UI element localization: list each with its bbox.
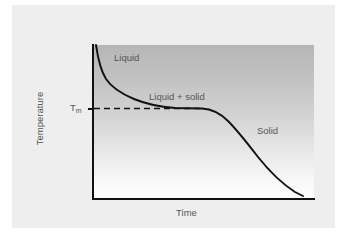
y-axis-tick-label-tm: Tm — [70, 102, 82, 113]
x-axis-line — [92, 198, 315, 200]
annotation-liquid-plus-solid: Liquid + solid — [149, 92, 205, 102]
tm-subscript-text: m — [76, 107, 82, 114]
annotation-solid: Solid — [257, 126, 278, 136]
plot-area-gradient — [93, 45, 314, 198]
figure-panel: Liquid Liquid + solid Solid Tm Temperatu… — [12, 5, 335, 228]
y-axis-line — [92, 44, 94, 200]
y-axis-title: Temperature — [34, 64, 45, 174]
x-axis-title: Time — [12, 207, 349, 218]
figure-root: Liquid Liquid + solid Solid Tm Temperatu… — [0, 0, 349, 239]
tm-base-text: T — [70, 102, 76, 113]
tm-axis-tick — [88, 108, 93, 110]
annotation-liquid: Liquid — [114, 53, 139, 63]
